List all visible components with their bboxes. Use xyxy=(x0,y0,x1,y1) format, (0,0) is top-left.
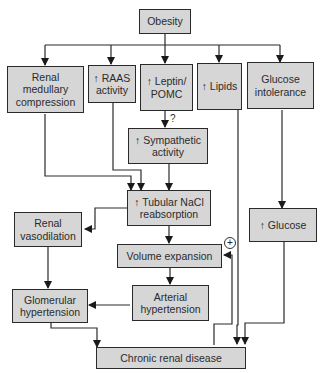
node-tubular-nacl-reabsorption: ↑ Tubular NaCl reabsorption xyxy=(127,190,211,226)
node-glucose: ↑ Glucose xyxy=(249,208,317,242)
node-renal-vasodilation: Renal vasodilation xyxy=(14,212,82,247)
node-leptin-pomc: ↑ Leptin/ POMC xyxy=(140,64,193,111)
node-arterial-hypertension: Arterial hypertension xyxy=(132,285,209,321)
edge-renal-medullary-tubular xyxy=(45,114,131,190)
edge-glucose-chronic xyxy=(245,242,284,344)
node-glomerular-hypertension: Glomerular hypertension xyxy=(12,289,88,323)
positive-feedback-icon: + xyxy=(224,237,236,249)
node-glucose-intolerance: Glucose intolerance xyxy=(247,62,314,109)
node-obesity: Obesity xyxy=(139,9,191,34)
node-lipids: ↑ Lipids xyxy=(197,63,242,110)
node-chronic-renal-disease: Chronic renal disease xyxy=(96,347,246,369)
node-raas-activity: ↑ RAAS activity xyxy=(88,65,136,103)
uncertain-link-label: ? xyxy=(170,113,176,124)
node-renal-medullary-compression: Renal medullary compression xyxy=(7,66,84,113)
node-volume-expansion: Volume expansion xyxy=(117,244,222,268)
edge-chronic-volume-feedback xyxy=(214,255,232,345)
edge-glomerular-chronic xyxy=(51,323,97,347)
edge-lipids-chronic xyxy=(237,110,238,344)
node-sympathetic-activity: ↑ Sympathetic activity xyxy=(128,128,208,164)
edge-tubular-renal-vasodilation xyxy=(85,208,127,229)
